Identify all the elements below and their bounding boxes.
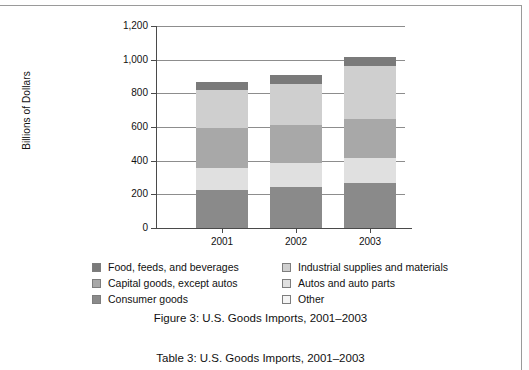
bar-2002	[270, 75, 322, 228]
y-tick-label: 600	[102, 122, 148, 132]
legend-item: Consumer goods	[92, 291, 239, 307]
stacked-bar-chart: Billions of Dollars 02004006008001,0001,…	[0, 10, 521, 250]
top-border-rule	[0, 5, 521, 6]
x-axis-tick	[222, 228, 223, 233]
bar-2001	[196, 82, 248, 228]
bar-segment	[196, 168, 248, 190]
legend-label: Autos and auto parts	[298, 277, 395, 289]
bar-segment	[344, 119, 396, 158]
legend-column-right: Industrial supplies and materialsAutos a…	[282, 259, 448, 307]
y-tick-label: 1,200	[102, 21, 148, 31]
y-axis-tick	[151, 228, 156, 229]
legend-swatch	[92, 263, 101, 272]
x-tick-label: 2002	[266, 236, 326, 247]
legend-swatch	[92, 295, 101, 304]
legend-label: Food, feeds, and beverages	[108, 261, 239, 273]
gridline	[157, 26, 405, 27]
legend-swatch	[282, 295, 291, 304]
x-tick-label: 2003	[340, 236, 400, 247]
y-axis-tick	[151, 161, 156, 162]
bar-2003	[344, 57, 396, 228]
legend-column-left: Food, feeds, and beveragesCapital goods,…	[92, 259, 239, 307]
legend-label: Capital goods, except autos	[108, 277, 238, 289]
x-axis-tick	[370, 228, 371, 233]
bar-segment	[270, 125, 322, 163]
bar-segment	[196, 128, 248, 168]
y-axis-tick	[151, 26, 156, 27]
right-border-rule	[521, 5, 522, 370]
y-tick-label: 400	[102, 156, 148, 166]
plot-area: 02004006008001,0001,200 200120022003	[156, 26, 412, 228]
bar-segment	[344, 66, 396, 119]
table-caption: Table 3: U.S. Goods Imports, 2001–2003	[0, 352, 521, 364]
bar-segment	[196, 90, 248, 128]
legend-item: Autos and auto parts	[282, 275, 448, 291]
chart-legend: Food, feeds, and beveragesCapital goods,…	[92, 259, 492, 307]
bar-segment	[196, 190, 248, 228]
legend-label: Other	[298, 293, 324, 305]
y-axis-tick	[151, 60, 156, 61]
bar-segment	[270, 75, 322, 83]
y-axis-tick	[151, 194, 156, 195]
y-tick-label: 1,000	[102, 55, 148, 65]
legend-item: Industrial supplies and materials	[282, 259, 448, 275]
bar-segment	[344, 183, 396, 228]
y-axis-title: Billions of Dollars	[21, 51, 32, 171]
x-tick-label: 2001	[192, 236, 252, 247]
legend-item: Other	[282, 291, 448, 307]
legend-swatch	[92, 279, 101, 288]
y-axis-tick	[151, 93, 156, 94]
x-axis-line	[156, 228, 412, 229]
legend-swatch	[282, 279, 291, 288]
legend-item: Food, feeds, and beverages	[92, 259, 239, 275]
bar-segment	[270, 84, 322, 126]
legend-item: Capital goods, except autos	[92, 275, 239, 291]
legend-label: Industrial supplies and materials	[298, 261, 448, 273]
bar-segment	[270, 187, 322, 228]
y-axis-tick	[151, 127, 156, 128]
bar-segment	[270, 163, 322, 186]
bar-segment	[344, 57, 396, 66]
y-tick-label: 200	[102, 189, 148, 199]
x-axis-tick	[296, 228, 297, 233]
y-tick-label: 0	[102, 223, 148, 233]
figure-caption: Figure 3: U.S. Goods Imports, 2001–2003	[0, 312, 521, 324]
page-frame: Billions of Dollars 02004006008001,0001,…	[0, 0, 529, 370]
legend-label: Consumer goods	[108, 293, 188, 305]
y-tick-label: 800	[102, 88, 148, 98]
bar-segment	[344, 158, 396, 183]
bar-segment	[196, 82, 248, 90]
legend-swatch	[282, 263, 291, 272]
